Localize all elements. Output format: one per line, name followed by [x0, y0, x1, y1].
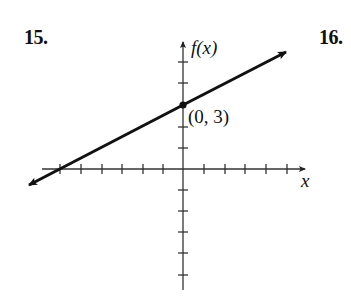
- x-axis: [42, 164, 305, 174]
- y-intercept-point: [179, 101, 186, 108]
- function-line: [29, 52, 286, 185]
- y-axis-label: f(x): [191, 37, 217, 59]
- x-axis-label: x: [301, 170, 309, 192]
- point-label: (0, 3): [188, 106, 229, 128]
- graph: [0, 0, 351, 297]
- y-axis: [178, 42, 188, 290]
